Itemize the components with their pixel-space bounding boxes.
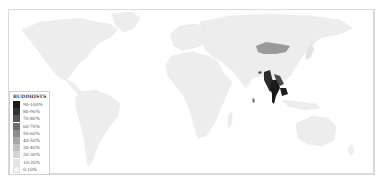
central-america[interactable] [66,80,82,94]
sri-lanka[interactable] [252,98,255,103]
legend-item: 20-30% [13,151,47,158]
legend-swatch [13,151,20,158]
indonesia[interactable] [282,100,320,110]
cambodia[interactable] [280,88,288,96]
legend-swatch [13,159,20,166]
legend-swatch [13,144,20,151]
legend-swatch [13,137,20,144]
legend-swatch [13,123,20,130]
legend-swatch [13,115,20,122]
legend-item: 30-40% [13,144,47,151]
legend-item: 50-60% [13,130,47,137]
africa[interactable] [166,52,232,138]
legend-swatch [13,108,20,115]
legend-title: BUDDHISTS [13,94,47,99]
legend-swatch [13,101,20,108]
legend-swatch [13,166,20,173]
legend-item: 90-100% [13,101,47,108]
legend-item: 40-50% [13,137,47,144]
south-america[interactable] [76,90,120,166]
australia[interactable] [296,116,336,146]
legend-item: 70-80% [13,115,47,122]
legend-item: 80-90% [13,108,47,115]
north-america[interactable] [22,18,118,80]
legend-swatch [13,130,20,137]
legend: BUDDHISTS 90-100% 80-90% 70-80% 60-70% 5… [9,91,50,175]
legend-item: 0-10% [13,166,47,173]
world-map [0,0,382,185]
legend-item: 10-20% [13,159,47,166]
madagascar[interactable] [228,112,232,128]
new-zealand[interactable] [348,144,354,156]
legend-item: 60-70% [13,123,47,130]
